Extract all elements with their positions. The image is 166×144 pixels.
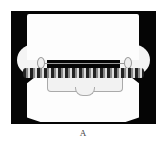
dental-cast-photo (11, 11, 156, 124)
upper-cast (27, 14, 139, 60)
teeth-row (23, 68, 144, 78)
panel-label: A (0, 128, 166, 138)
